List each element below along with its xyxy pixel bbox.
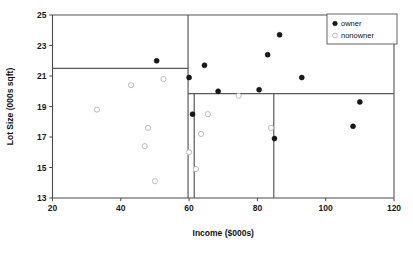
data-point-owner	[257, 87, 262, 92]
data-point-owner	[357, 99, 362, 104]
y-tick-label: 17	[37, 132, 47, 142]
data-point-nonowner	[193, 166, 198, 171]
data-point-owner	[190, 112, 195, 117]
y-tick-label: 15	[37, 163, 47, 173]
data-point-nonowner	[94, 107, 99, 112]
data-point-owner	[272, 136, 277, 141]
legend-marker-nonowner	[333, 33, 338, 38]
series-nonowner-points	[94, 76, 273, 183]
data-point-nonowner	[161, 76, 166, 81]
data-point-nonowner	[236, 93, 241, 98]
data-point-nonowner	[187, 150, 192, 155]
data-point-owner	[202, 63, 207, 68]
data-point-owner	[277, 32, 282, 37]
y-tick-label: 23	[37, 41, 47, 51]
legend-label-owner: owner	[341, 19, 362, 28]
scatter-chart-container: 2040608010012013151719212325 ownernonown…	[0, 0, 413, 259]
x-tick-label: 60	[184, 203, 194, 213]
x-axis-title: Income ($000s)	[193, 228, 255, 238]
x-tick-label: 100	[319, 203, 333, 213]
data-point-nonowner	[198, 131, 203, 136]
x-tick-label: 80	[253, 203, 263, 213]
y-tick-label: 21	[37, 71, 47, 81]
data-point-owner	[216, 89, 221, 94]
data-point-nonowner	[268, 125, 273, 130]
x-tick-label: 20	[48, 203, 58, 213]
data-point-owner	[299, 75, 304, 80]
data-point-owner	[187, 75, 192, 80]
y-tick-label: 19	[37, 102, 47, 112]
legend-label-nonowner: nonowner	[341, 31, 374, 40]
data-point-nonowner	[205, 112, 210, 117]
x-tick-label: 120	[387, 203, 401, 213]
plot-svg: 2040608010012013151719212325 ownernonown…	[0, 0, 413, 259]
data-point-owner	[265, 52, 270, 57]
y-tick-label: 13	[37, 193, 47, 203]
y-tick-label: 25	[37, 10, 47, 20]
legend-marker-owner	[333, 21, 338, 26]
data-point-nonowner	[152, 179, 157, 184]
data-point-nonowner	[142, 144, 147, 149]
data-point-owner	[351, 124, 356, 129]
series-owner-points	[154, 32, 362, 141]
data-point-nonowner	[146, 125, 151, 130]
data-point-owner	[154, 58, 159, 63]
y-axis-title: Lot Size (000s sqft)	[5, 68, 15, 146]
x-tick-label: 40	[116, 203, 126, 213]
chart-legend: ownernonowner	[327, 14, 397, 44]
data-point-nonowner	[128, 83, 133, 88]
